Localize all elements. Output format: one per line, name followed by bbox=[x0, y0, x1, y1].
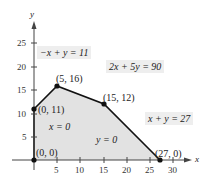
y-tick-label: 25 bbox=[17, 39, 26, 48]
x-axis-arrow-icon bbox=[184, 158, 192, 163]
x-tick-label: 30 bbox=[168, 166, 177, 175]
x-tick-label: 25 bbox=[145, 166, 154, 175]
constraint-label-y-eq-0: y = 0 bbox=[96, 134, 117, 145]
x-tick-label: 15 bbox=[99, 166, 108, 175]
x-tick-label: 5 bbox=[54, 166, 59, 175]
y-tick-label: 5 bbox=[22, 133, 27, 142]
y-axis-label: y bbox=[30, 9, 34, 20]
constraint-label-x-plus-y: x + y = 27 bbox=[145, 112, 193, 125]
x-tick-label: 10 bbox=[75, 166, 84, 175]
y-tick-label: 10 bbox=[17, 110, 26, 119]
vertex-label-5-16: (5, 16) bbox=[56, 73, 83, 84]
y-axis-arrow-icon bbox=[32, 21, 37, 29]
x-tick-label: 20 bbox=[122, 166, 131, 175]
vertex-label-0-11: (0, 11) bbox=[38, 104, 64, 115]
y-tick-label: 20 bbox=[17, 63, 26, 72]
vertex-label-0-0: (0, 0) bbox=[36, 147, 58, 158]
constraint-label-x-eq-0: x = 0 bbox=[49, 121, 70, 132]
constraint-label-2x-plus-5y: 2x + 5y = 90 bbox=[106, 60, 164, 73]
x-axis-label: x bbox=[195, 154, 199, 165]
constraint-label-neg-x-plus-y: −x + y = 11 bbox=[37, 46, 91, 59]
y-tick-label: 15 bbox=[17, 86, 26, 95]
vertex-label-27-0: (27, 0) bbox=[155, 148, 182, 159]
vertex-label-15-12: (15, 12) bbox=[103, 92, 135, 103]
